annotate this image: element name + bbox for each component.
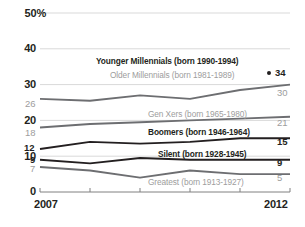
series-label-younger-millennials: Younger Millennials (born 1990-1994) xyxy=(96,57,238,66)
value-label-boomers-start: 12 xyxy=(24,143,35,153)
value-label-greatest-start: 7 xyxy=(30,164,35,174)
series-label-greatest: Greatest (born 1913-1927) xyxy=(148,178,244,187)
series-line-older-millennials xyxy=(40,85,290,101)
y-tick-50: 50% xyxy=(2,8,46,19)
value-label-older-millennials-end: 30 xyxy=(277,88,288,98)
series-label-silent: Silent (born 1928-1945) xyxy=(158,150,247,159)
x-tick-2007: 2007 xyxy=(34,199,58,210)
value-label-older-millennials-start: 26 xyxy=(25,99,36,109)
value-label-gen-xers-start: 18 xyxy=(25,128,36,138)
series-label-gen-xers: Gen Xers (born 1965-1980) xyxy=(148,110,247,119)
series-label-boomers: Boomers (born 1946-1964) xyxy=(148,128,250,137)
series-label-older-millennials: Older Millennials (born 1981-1989) xyxy=(110,71,234,80)
y-tick-20: 20 xyxy=(2,115,36,126)
younger-millennials-data-point-marker xyxy=(267,71,271,75)
x-axis xyxy=(40,188,290,192)
y-tick-40: 40 xyxy=(2,43,36,54)
series-line-boomers xyxy=(40,138,290,149)
value-label-greatest-end: 5 xyxy=(277,173,282,183)
value-label-younger-millennials-end: 34 xyxy=(275,68,286,78)
x-tick-2012: 2012 xyxy=(264,199,288,210)
y-tick-30: 30 xyxy=(2,79,36,90)
value-label-boomers-end: 15 xyxy=(277,137,288,147)
y-tick-0: 0 xyxy=(2,186,36,197)
value-label-gen-xers-end: 21 xyxy=(277,118,288,128)
line-chart: 50% 40 30 20 10 0 2007 2012 26 18 12 9 7… xyxy=(0,0,305,227)
value-label-silent-end: 9 xyxy=(277,158,282,168)
